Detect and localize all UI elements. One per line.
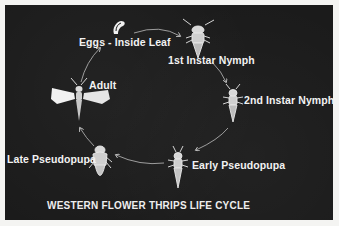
diagram-title: WESTERN FLOWER THRIPS LIFE CYCLE [47, 201, 250, 211]
stage-label-early-pseudopupa: Early Pseudopupa [192, 160, 285, 171]
arrow-late-pseudopupa-to-adult [80, 128, 94, 146]
arrow-eggs-to-first-instar [134, 29, 180, 36]
stage-label-first-instar: 1st Instar Nymph [168, 55, 255, 66]
stage-label-late-pseudopupa: Late Pseudopupa [7, 154, 96, 165]
stage-label-eggs: Eggs - Inside Leaf [79, 37, 171, 48]
life-cycle-graphics [0, 0, 339, 226]
first-instar-nymph-icon [183, 19, 214, 58]
arrow-second-instar-to-early-pseudopupa [196, 128, 228, 150]
egg-icon [113, 21, 124, 34]
second-instar-nymph-icon [223, 84, 243, 122]
stage-label-adult: Adult [89, 80, 116, 91]
arrow-early-to-late-pseudopupa [116, 155, 164, 164]
early-pseudopupa-icon [168, 146, 188, 188]
arrow-adult-to-eggs [81, 48, 100, 82]
stage-label-second-instar: 2nd Instar Nymph [244, 95, 334, 106]
